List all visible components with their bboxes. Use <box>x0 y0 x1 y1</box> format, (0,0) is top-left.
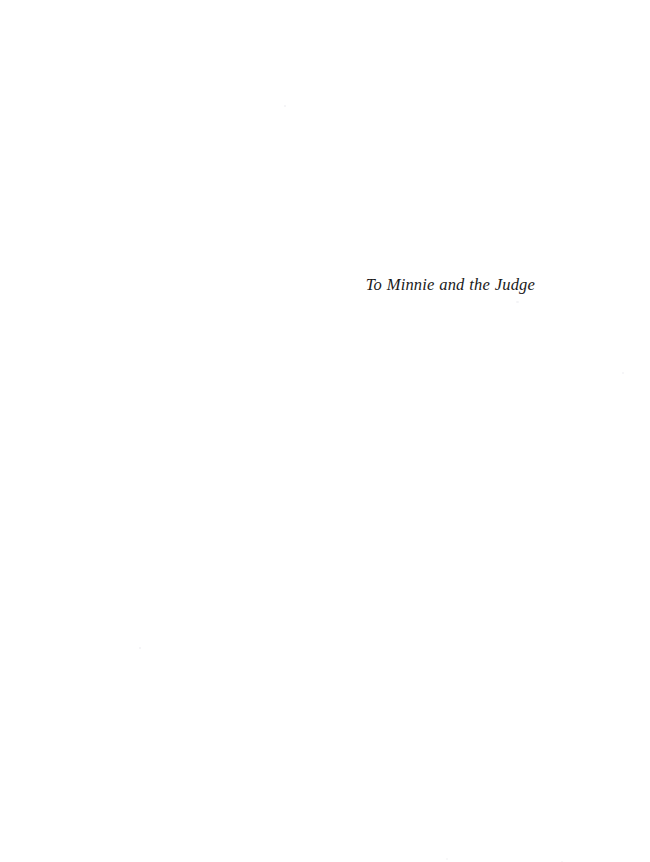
dedication-text: To Minnie and the Judge <box>366 275 535 294</box>
scan-speck <box>622 372 624 374</box>
scan-speck <box>446 858 448 860</box>
dedication-block: To Minnie and the Judge <box>0 274 535 295</box>
scan-speck <box>516 301 519 303</box>
scan-speck <box>139 647 141 649</box>
scan-speck <box>284 105 286 107</box>
document-page: To Minnie and the Judge <box>0 0 650 862</box>
